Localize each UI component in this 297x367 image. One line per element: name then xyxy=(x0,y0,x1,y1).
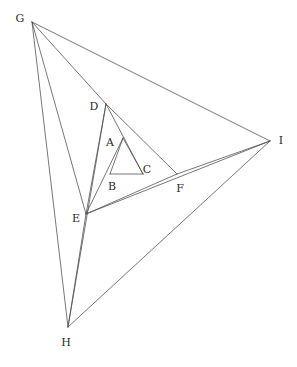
edge-df xyxy=(106,104,177,174)
edge-he xyxy=(68,214,86,327)
edge-ef xyxy=(86,174,177,214)
geometry-figure: ABCDEFGHI xyxy=(0,0,297,367)
edge-ea xyxy=(86,138,123,214)
edge-gh xyxy=(32,22,68,327)
vertex-label-f: F xyxy=(176,182,184,195)
vertex-label-a: A xyxy=(105,136,115,149)
vertex-label-g: G xyxy=(16,12,25,25)
edge-gd xyxy=(32,22,106,104)
edge-hi xyxy=(68,141,270,327)
vertex-label-i: I xyxy=(279,134,283,147)
edge-ie xyxy=(86,141,270,214)
edge-ge xyxy=(32,22,86,214)
vertex-label-e: E xyxy=(72,212,80,225)
edge-gi xyxy=(32,22,270,141)
vertex-label-b: B xyxy=(108,180,116,193)
geometry-canvas: ABCDEFGHI xyxy=(0,0,297,367)
vertex-label-c: C xyxy=(143,163,151,176)
vertex-label-d: D xyxy=(90,100,99,113)
vertex-label-h: H xyxy=(61,336,71,349)
edge-if xyxy=(177,141,270,174)
vertex-labels-group: ABCDEFGHI xyxy=(16,12,284,349)
